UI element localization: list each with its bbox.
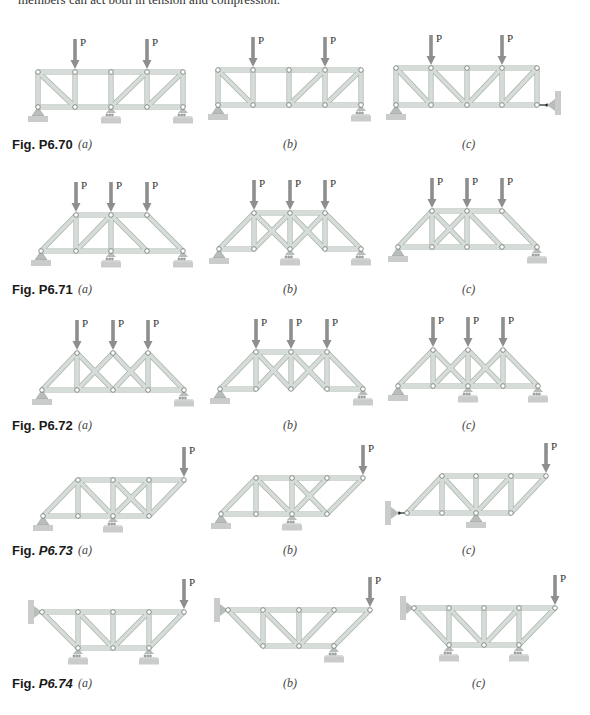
load-arrow-icon: P (73, 317, 89, 350)
truss-P6.74-a: P (28, 576, 195, 665)
subfigure-label: (a) (78, 282, 92, 297)
load-label: P (472, 175, 478, 187)
load-label: P (551, 440, 557, 452)
load-label: P (507, 175, 513, 187)
load-label: P (80, 36, 86, 48)
truss-P6.72-a: PPP (32, 317, 194, 407)
load-label: P (375, 574, 381, 586)
truss-figures-canvas: PPPPPPPPPPPPPPPPPPPPPPPPPPPPPP (0, 0, 590, 715)
truss-P6.70-a: PP (28, 36, 193, 124)
load-label: P (507, 32, 513, 44)
truss-members (43, 480, 184, 516)
subfigure-label: (c) (462, 418, 475, 433)
load-arrow-icon: P (249, 34, 265, 67)
load-label: P (116, 179, 122, 191)
load-arrow-icon: P (499, 314, 515, 347)
truss-members (219, 213, 361, 249)
subfigure-label: (c) (462, 137, 475, 152)
truss-P6.71-a: PPP (31, 179, 193, 268)
load-label: P (81, 179, 87, 191)
load-label: P (189, 444, 195, 456)
load-label: P (296, 316, 302, 328)
subfigure-label: (a) (78, 137, 92, 152)
truss-members (398, 211, 537, 247)
load-label: P (368, 442, 374, 454)
load-arrow-icon: P (143, 179, 159, 212)
load-label: P (259, 177, 265, 189)
truss-P6.72-c: PPP (388, 314, 548, 403)
load-arrow-icon: P (109, 317, 125, 350)
load-label: P (189, 576, 195, 588)
figure-label: Fig. P6.71 (12, 282, 73, 297)
load-arrow-icon: P (180, 576, 196, 609)
load-arrow-icon: P (359, 442, 375, 475)
load-label: P (152, 179, 158, 191)
load-arrow-icon: P (143, 36, 159, 69)
subfigure-label: (a) (78, 543, 92, 558)
load-arrow-icon: P (463, 175, 479, 208)
load-arrow-icon: P (542, 440, 558, 473)
load-arrow-icon: P (180, 444, 196, 477)
load-label: P (152, 36, 158, 48)
truss-P6.70-b: PP (208, 34, 371, 122)
load-label: P (438, 314, 444, 326)
subfigure-label: (b) (283, 137, 297, 152)
figure-label: Fig. P6.72 (12, 418, 73, 433)
figure-label: Fig. P6.70 (12, 137, 73, 152)
truss-members (414, 608, 555, 645)
subfigure-label: (b) (283, 676, 297, 691)
load-label: P (560, 572, 566, 584)
subfigure-label: (a) (78, 676, 92, 691)
load-label: P (118, 317, 124, 329)
support-link-wall-left (385, 501, 407, 525)
load-arrow-icon: P (323, 316, 339, 349)
truss-members (228, 610, 370, 646)
truss-members (38, 72, 183, 107)
truss-members (42, 353, 184, 390)
load-label: P (82, 317, 88, 329)
load-arrow-icon: P (321, 177, 337, 210)
truss-members (220, 352, 363, 389)
load-label: P (473, 314, 479, 326)
load-arrow-icon: P (427, 32, 443, 65)
load-label: P (258, 34, 264, 46)
load-arrow-icon: P (71, 36, 87, 69)
subfigure-label: (b) (283, 418, 297, 433)
load-label: P (261, 316, 267, 328)
load-arrow-icon: P (250, 177, 266, 210)
load-label: P (153, 317, 159, 329)
subfigure-label: (a) (78, 418, 92, 433)
truss-P6.71-c: PPP (388, 175, 547, 264)
truss-members (221, 478, 363, 514)
load-arrow-icon: P (464, 314, 480, 347)
load-arrow-icon: P (551, 572, 567, 605)
truss-P6.71-b: PPP (209, 177, 371, 266)
truss-members (398, 350, 538, 386)
load-arrow-icon: P (107, 179, 123, 212)
load-arrow-icon: P (144, 317, 160, 350)
truss-members (218, 70, 361, 105)
load-arrow-icon: P (498, 175, 514, 208)
truss-members (41, 215, 183, 251)
subfigure-label: (c) (462, 543, 475, 558)
truss-members (42, 612, 184, 648)
load-arrow-icon: P (286, 177, 302, 210)
subfigure-label: (b) (283, 282, 297, 297)
load-label: P (330, 34, 336, 46)
truss-members (407, 476, 546, 513)
truss-P6.73-c: P (385, 440, 557, 528)
truss-P6.74-b: P (214, 574, 381, 663)
load-arrow-icon: P (498, 32, 514, 65)
load-label: P (295, 177, 301, 189)
truss-P6.73-a: P (33, 444, 195, 533)
load-arrow-icon: P (321, 34, 337, 67)
truss-P6.70-c: PP (386, 32, 561, 120)
subfigure-label: (c) (472, 676, 485, 691)
load-arrow-icon: P (287, 316, 303, 349)
subfigure-label: (c) (462, 282, 475, 297)
load-label: P (436, 32, 442, 44)
load-label: P (332, 316, 338, 328)
load-label: P (437, 175, 443, 187)
truss-P6.73-b: P (211, 442, 374, 531)
load-arrow-icon: P (428, 175, 444, 208)
